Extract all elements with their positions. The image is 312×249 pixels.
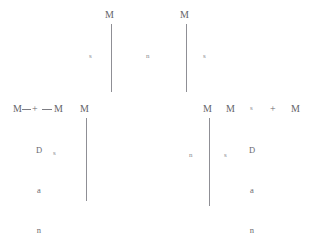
bottom-right-atom-1: M [203, 104, 212, 114]
vletter-d: D [246, 144, 258, 157]
vletter-a1: a [246, 184, 258, 197]
bottom-right-label-head-s: s [250, 105, 253, 112]
top-bond-left [111, 24, 112, 92]
bottom-right-vertical-word: D a n l a y e r s [246, 118, 258, 249]
bottom-left-vertical-word: D a n l a y e r s [33, 118, 45, 249]
vletter-d: D [33, 144, 45, 157]
bottom-right-label-s: s [224, 152, 227, 159]
bottom-left-bond-a [22, 109, 31, 110]
bottom-right-atom-2: M [226, 104, 235, 114]
top-atom-left: M [105, 10, 114, 20]
bottom-left-bond-b [42, 109, 52, 110]
figure-canvas: M M s n s M + M M D a n l a y e r s s M … [0, 0, 312, 249]
bottom-right-label-n: n [189, 152, 193, 159]
top-label-s-left: s [89, 53, 92, 60]
bottom-right-operator: + [270, 104, 276, 114]
top-label-n-middle: n [146, 53, 150, 60]
bottom-left-atom-2: M [54, 104, 63, 114]
vletter-n: n [246, 224, 258, 237]
top-atom-right: M [180, 10, 189, 20]
vletter-a1: a [33, 184, 45, 197]
bottom-left-atom-1: M [13, 104, 22, 114]
bottom-left-side-label-s: s [53, 150, 56, 157]
bottom-left-operator: + [32, 104, 38, 114]
vletter-n: n [33, 224, 45, 237]
bottom-left-atom-3: M [80, 104, 89, 114]
top-bond-right [186, 24, 187, 92]
top-label-s-right: s [203, 53, 206, 60]
bottom-left-bond-vertical [86, 118, 87, 201]
bottom-right-bond-vertical [209, 118, 210, 206]
bottom-right-atom-3: M [291, 104, 300, 114]
